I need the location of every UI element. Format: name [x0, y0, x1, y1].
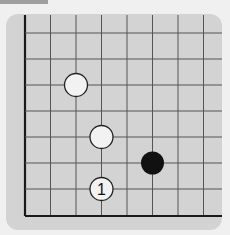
- grid-lines: [25, 15, 222, 216]
- move-number-label: 1: [97, 181, 106, 198]
- black-stone: [141, 152, 164, 175]
- white-stone: [90, 126, 113, 149]
- white-stone: 1: [90, 178, 113, 201]
- white-stone: [65, 74, 88, 97]
- board-grid: 1: [0, 0, 230, 235]
